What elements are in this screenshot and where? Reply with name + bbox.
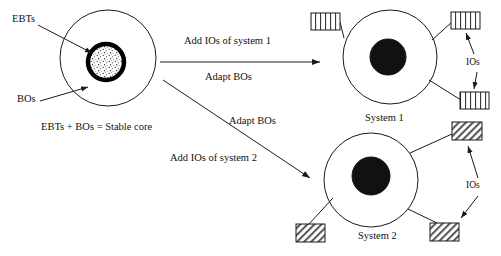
system-2-ios-arrow-down [461,196,478,218]
system-1-ios-arrow-up [466,33,474,54]
system-2-core-circle [352,157,390,195]
bos-pointer-line [40,87,88,101]
system-2-io-connector-bottom-right [408,209,437,223]
system-2-name: System 2 [358,231,397,242]
system-1-ios-label: IOs [466,58,480,68]
system-1-io-connector-left [340,22,344,38]
system-1-core-circle [370,39,406,75]
system-2-io-connector-bottom-left [309,198,333,224]
ebts-label: EBTs [12,14,35,25]
system-2-io-box-bottom-left [296,224,325,242]
system-1-io-box-left [311,13,340,30]
transition-2-line-2: Add IOs of system 2 [170,153,257,164]
transition-1-line-2: Adapt BOs [205,72,252,83]
system-1-ios-arrow-down [474,72,477,89]
system-2-io-box-bottom-right [430,223,459,241]
system-1-io-connector-bottom-right [429,80,461,100]
system-2-ios-label: IOs [466,181,480,191]
system-2-io-box-top-right [452,122,482,140]
diagram-canvas: EBTs BOs EBTs + BOs = Stable core Add IO… [0,0,501,256]
system-1-io-connector-top-right [432,22,452,40]
system-1-io-box-bottom-right [460,92,489,109]
bos-label: BOs [17,94,36,105]
system-2-ios-arrow-up [468,146,478,178]
source-caption: EBTs + BOs = Stable core [41,122,152,133]
transition-1-line-1: Add IOs of system 1 [184,36,271,47]
source-system-group [60,10,156,106]
system-1-name: System 1 [365,113,404,124]
source-core-circle [88,44,124,80]
transition-2-line-1: Adapt BOs [229,116,276,127]
ebts-pointer-line [38,25,92,53]
system-2-io-connector-top-right [410,134,452,153]
system-1-io-box-top-right [451,12,480,29]
system-1-group [311,10,489,109]
system-2-group [296,122,482,242]
